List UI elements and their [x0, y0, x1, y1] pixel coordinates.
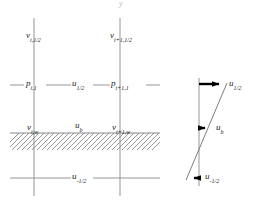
- label-u-half: u1/2: [72, 79, 84, 88]
- label-profile-u-minus-half: u-1/2: [205, 172, 219, 181]
- label-profile-u-b-base: u: [216, 122, 221, 132]
- label-u-b: ub: [75, 121, 83, 130]
- label-p-i-1-base: p: [26, 78, 31, 88]
- label-u-half-sub: 1/2: [77, 85, 85, 91]
- label-p-ip1-1-base: p: [111, 78, 116, 88]
- label-u-b-base: u: [75, 120, 80, 130]
- label-profile-u-half-sub: 1/2: [234, 85, 242, 91]
- label-p-i-1-sub: i,1: [31, 85, 37, 91]
- label-u-minus-half-base: u: [72, 171, 77, 181]
- wall-hatching: [2, 133, 169, 150]
- label-u-b-sub: b: [80, 127, 83, 133]
- label-profile-u-b: ub: [216, 123, 224, 132]
- label-u-half-base: u: [72, 78, 77, 88]
- label-p-i-1: pi,1: [26, 79, 37, 88]
- label-profile-u-minus-half-sub: -1/2: [210, 178, 220, 184]
- label-p-ip1-1: pi+1,1: [111, 79, 129, 88]
- label-v-i-half-sub: i,1/2: [30, 37, 41, 43]
- label-v-i-w-sub: i,w: [31, 129, 38, 135]
- label-v-i-w: vi,w: [27, 123, 38, 132]
- label-u-minus-half-sub: -1/2: [77, 178, 87, 184]
- label-u-minus-half: u-1/2: [72, 172, 86, 181]
- top-artifact-mark: y: [119, 0, 123, 8]
- label-v-ip1-half: vi+1,1/2: [110, 31, 132, 40]
- label-profile-u-half-base: u: [229, 78, 234, 88]
- label-v-ip1-half-sub: i+1,1/2: [114, 37, 132, 43]
- label-v-ip1-w-sub: i+1,w: [116, 129, 130, 135]
- label-profile-u-half: u1/2: [229, 79, 241, 88]
- label-profile-u-minus-half-base: u: [205, 171, 210, 181]
- label-profile-u-b-sub: b: [221, 129, 224, 135]
- label-v-i-half: vi,1/2: [26, 31, 41, 40]
- label-p-ip1-1-sub: i+1,1: [116, 85, 129, 91]
- label-v-ip1-w: vi+1,w: [112, 123, 130, 132]
- staggered-grid-figure: y vi,1/2 vi+1,1/2 pi,1 u1/2 pi+1,1 vi,w …: [0, 0, 254, 204]
